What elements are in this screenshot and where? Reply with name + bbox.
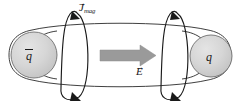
antiquark-sphere-body xyxy=(11,32,57,78)
e-vector-arrow-icon: → xyxy=(135,63,144,72)
physics-figure: → J mag → E q q xyxy=(0,0,237,110)
electric-field-label: → E xyxy=(136,66,143,77)
antiquark-symbol: q xyxy=(26,49,32,64)
quark-label: q xyxy=(206,50,212,65)
quark-symbol: q xyxy=(206,50,212,64)
antiquark-label: q xyxy=(26,49,32,64)
magnetic-current-label: → J mag xyxy=(79,2,95,15)
e-symbol-wrap: → E xyxy=(136,66,143,77)
electric-field-arrow-shape xyxy=(100,45,156,66)
j-vector-arrow-icon: → xyxy=(77,0,86,8)
electric-field-arrow xyxy=(100,45,156,66)
antiquark-sphere xyxy=(11,32,57,78)
figure-canvas xyxy=(0,0,237,110)
j-symbol-wrap: → J xyxy=(79,2,84,13)
